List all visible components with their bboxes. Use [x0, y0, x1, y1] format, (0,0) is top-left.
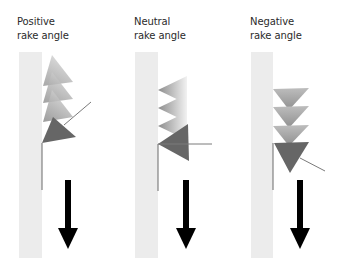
down-arrow-icon — [176, 180, 196, 249]
down-arrow-icon — [290, 180, 310, 249]
chip-triangles — [273, 88, 309, 146]
workpiece-bar — [19, 52, 42, 258]
workpiece-bar — [135, 52, 158, 258]
rake-angle-diagram — [0, 0, 339, 267]
workpiece-bar — [251, 52, 273, 258]
chip-triangles — [43, 55, 73, 122]
positive-rake-panel — [19, 52, 91, 258]
negative-rake-panel — [251, 52, 325, 258]
tool-tip-triangle — [274, 142, 309, 173]
rake-face-line — [300, 158, 325, 171]
neutral-rake-panel — [135, 52, 212, 258]
down-arrow-icon — [58, 180, 78, 249]
